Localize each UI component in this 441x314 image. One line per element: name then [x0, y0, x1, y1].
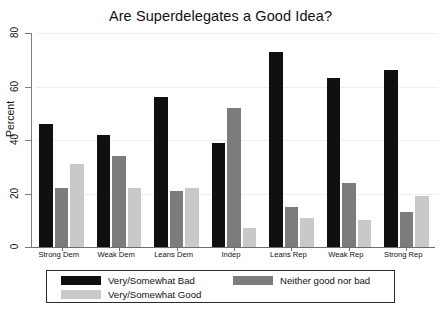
bar-group [151, 33, 208, 247]
x-axis-tick-label: Strong Dem [30, 250, 87, 259]
bar [358, 220, 372, 247]
legend-swatch [61, 290, 101, 299]
y-axis-tick-label: 40 [9, 129, 20, 151]
bar [39, 124, 53, 247]
bar [384, 70, 398, 247]
chart-title: Are Superdelegates a Good Idea? [0, 8, 441, 24]
bar [285, 207, 299, 247]
bar [128, 188, 142, 247]
bar [97, 135, 111, 247]
y-axis-tick [25, 33, 31, 34]
bar [185, 188, 199, 247]
bar [70, 164, 84, 247]
x-axis-tick-label: Leans Rep [260, 250, 317, 259]
bar [415, 196, 429, 247]
legend-item: Neither good nor bad [233, 275, 370, 286]
legend-item: Very/Somewhat Good [61, 289, 201, 300]
bar [170, 191, 184, 247]
x-axis-tick-label: Weak Rep [317, 250, 374, 259]
y-axis-tick-label: 60 [9, 75, 20, 97]
x-axis-tick-label: Strong Rep [375, 250, 432, 259]
bar [112, 156, 126, 247]
y-axis-tick-label: 20 [9, 182, 20, 204]
bar [55, 188, 69, 247]
bar [154, 97, 168, 247]
bar-group [323, 33, 380, 247]
legend-swatch [61, 276, 101, 285]
legend-swatch [233, 276, 273, 285]
x-axis-tick-label: Indep [202, 250, 259, 259]
bar-group [381, 33, 438, 247]
y-axis-tick [25, 194, 31, 195]
legend-label: Very/Somewhat Bad [108, 275, 195, 286]
y-axis-line [31, 33, 32, 247]
bar [243, 228, 257, 247]
bar-chart: Are Superdelegates a Good Idea? Percent … [0, 0, 441, 314]
y-axis-tick-label: 80 [9, 22, 20, 44]
bar-group [266, 33, 323, 247]
legend-label: Neither good nor bad [280, 275, 370, 286]
y-axis-tick [25, 247, 31, 248]
y-axis-tick-label: 0 [9, 236, 20, 258]
bar [400, 212, 414, 247]
bar [212, 143, 226, 247]
x-axis-tick-label: Leans Dem [145, 250, 202, 259]
chart-legend: Very/Somewhat BadVery/Somewhat GoodNeith… [46, 270, 395, 303]
x-axis-tick-label: Weak Dem [87, 250, 144, 259]
plot-area: 020406080 [36, 33, 438, 247]
bar [227, 108, 241, 247]
bar [300, 218, 314, 247]
bar-group [208, 33, 265, 247]
legend-item: Very/Somewhat Bad [61, 275, 195, 286]
bar [269, 52, 283, 247]
y-axis-tick [25, 87, 31, 88]
bar-group [93, 33, 150, 247]
bar [327, 78, 341, 247]
legend-label: Very/Somewhat Good [108, 289, 201, 300]
bar-group [36, 33, 93, 247]
y-axis-tick [25, 140, 31, 141]
bar [342, 183, 356, 247]
